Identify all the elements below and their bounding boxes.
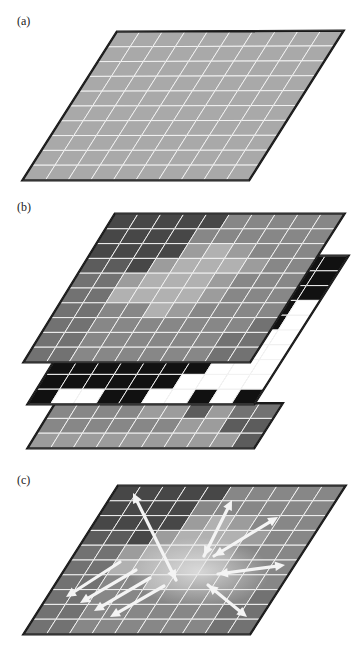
diagram-canvas [0, 0, 362, 651]
terrain-layer-bottom [28, 404, 282, 448]
uniform-grid-layer [23, 31, 343, 180]
flow-glow [130, 537, 270, 607]
